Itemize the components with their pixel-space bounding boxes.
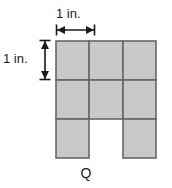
unit-square-r1c2 <box>123 80 156 119</box>
width-arrowhead-left <box>57 26 65 34</box>
unit-square-r0c2 <box>123 41 156 80</box>
figure-name-label: Q <box>0 166 172 180</box>
unit-square-r0c1 <box>89 41 123 80</box>
unit-square-r2c2 <box>123 119 156 158</box>
width-dimension-label: 1 in. <box>56 7 81 20</box>
height-arrowhead-bottom <box>41 71 49 79</box>
unit-square-r2c0 <box>56 119 89 158</box>
height-dimension-arrow <box>40 41 51 80</box>
width-arrowhead-right <box>86 26 94 34</box>
unit-square-group <box>56 41 156 158</box>
unit-square-r1c1 <box>89 80 123 119</box>
height-dimension-label: 1 in. <box>3 52 28 65</box>
unit-square-r0c0 <box>56 41 89 80</box>
composite-shape-diagram <box>0 0 172 188</box>
unit-square-r1c0 <box>56 80 89 119</box>
figure-container: 1 in. 1 in. Q <box>0 0 172 188</box>
width-dimension-arrow <box>57 25 95 36</box>
height-arrowhead-top <box>41 41 49 49</box>
